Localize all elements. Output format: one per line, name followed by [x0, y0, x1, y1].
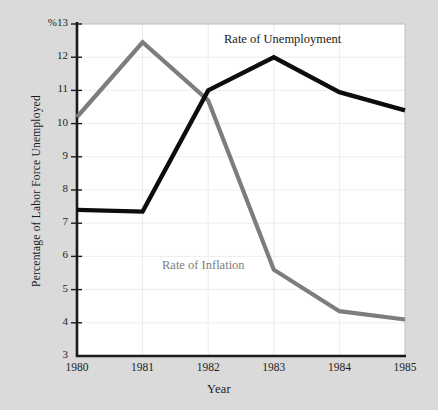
x-tick-label-1981: 1981	[120, 361, 166, 373]
x-tick-label-1980: 1980	[54, 361, 100, 373]
x-tick-label-1983: 1983	[251, 361, 297, 373]
x-axis-title: Year	[0, 382, 438, 397]
y-tick-label-3: 3	[30, 348, 68, 360]
x-tick-label-1984: 1984	[316, 361, 362, 373]
x-tick-label-1982: 1982	[185, 361, 231, 373]
series-label-inflation: Rate of Inflation	[162, 258, 245, 273]
x-tick-label-1985: 1985	[382, 361, 428, 373]
y-axis-title: Percentage of Labor Force Unemployed	[30, 76, 42, 306]
y-tick-label-4: 4	[30, 315, 68, 327]
chart-figure: %131211109876543 19801981198219831984198…	[0, 0, 438, 410]
y-tick-label-13: %13	[30, 16, 68, 28]
y-tick-label-12: 12	[30, 49, 68, 61]
series-label-unemployment: Rate of Unemployment	[224, 32, 341, 47]
